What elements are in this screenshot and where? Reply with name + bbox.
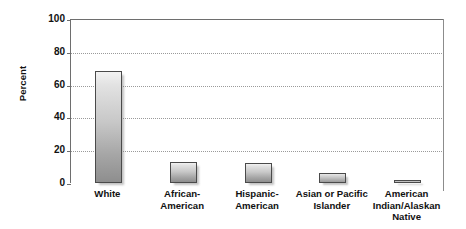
y-tick-mark xyxy=(67,86,71,87)
y-tick-mark xyxy=(67,151,71,152)
y-tick-mark xyxy=(67,53,71,54)
x-category-label: AmericanIndian/AlaskanNative xyxy=(357,188,456,223)
y-tick-label: 100 xyxy=(35,14,65,24)
bar-slot xyxy=(170,19,197,183)
bar xyxy=(95,71,122,183)
x-category-label-line: Native xyxy=(357,211,456,223)
x-category-label-line: Indian/Alaskan xyxy=(357,200,456,212)
y-axis-tick-labels: 020406080100 xyxy=(0,0,65,229)
bar-slot xyxy=(394,19,421,183)
bar xyxy=(394,180,421,183)
bar-slot xyxy=(319,19,346,183)
x-axis-category-labels: WhiteAfrican-AmericanHispanic-AmericanAs… xyxy=(70,188,444,229)
y-tick-label: 0 xyxy=(35,178,65,188)
x-category-label-line: American xyxy=(357,188,456,200)
y-tick-mark xyxy=(67,118,71,119)
y-tick-label: 40 xyxy=(35,112,65,122)
y-tick-mark xyxy=(67,20,71,21)
bar-chart: Percent 020406080100 WhiteAfrican-Americ… xyxy=(0,0,466,229)
bar-slot xyxy=(95,19,122,183)
plot-area xyxy=(70,19,444,183)
y-tick-label: 20 xyxy=(35,145,65,155)
bar xyxy=(319,173,346,183)
bar-slot xyxy=(245,19,272,183)
y-tick-mark xyxy=(67,184,71,185)
bar xyxy=(245,163,272,183)
y-tick-label: 80 xyxy=(35,47,65,57)
y-tick-label: 60 xyxy=(35,80,65,90)
bar xyxy=(170,162,197,183)
plot-right-frame xyxy=(443,19,444,191)
